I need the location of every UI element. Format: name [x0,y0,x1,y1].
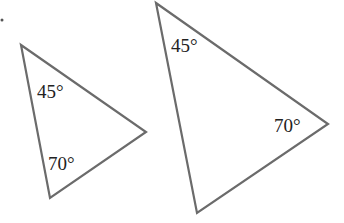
small-triangle-bottom-angle-label: 70° [48,153,75,174]
similar-triangles-diagram: 45° 70° 45° 70° [0,0,344,223]
small-triangle-top-angle-label: 45° [37,81,64,102]
large-triangle-right-angle-label: 70° [274,115,301,136]
small-triangle: 45° 70° [21,45,146,198]
small-triangle-outline [21,45,146,198]
large-triangle: 45° 70° [156,3,328,213]
bullet-dot [1,19,4,22]
large-triangle-top-angle-label: 45° [171,35,198,56]
